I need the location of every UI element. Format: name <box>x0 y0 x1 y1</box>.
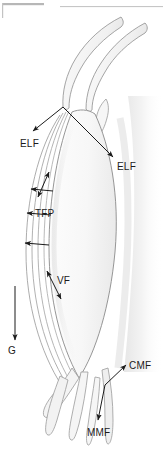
lateral-shadow <box>118 96 163 372</box>
label-g: G <box>8 346 16 356</box>
label-elf-left: ELF <box>20 139 39 149</box>
rule-right-mark <box>60 6 163 7</box>
leader-tfp-third-arrow <box>25 243 49 245</box>
rule-left-tick <box>2 3 3 18</box>
label-vf: VF <box>57 276 70 286</box>
rule-left-mark <box>2 3 44 5</box>
header-rules <box>2 3 163 18</box>
anatomy-illustration <box>0 0 163 452</box>
label-elf-right: ELF <box>117 162 136 172</box>
label-cmf: CMF <box>129 361 151 371</box>
anatomy-figure: ELF ELF TFP VF G CMF MMF <box>0 0 163 452</box>
label-mmf: MMF <box>87 428 110 438</box>
label-tfp: TFP <box>35 209 55 219</box>
